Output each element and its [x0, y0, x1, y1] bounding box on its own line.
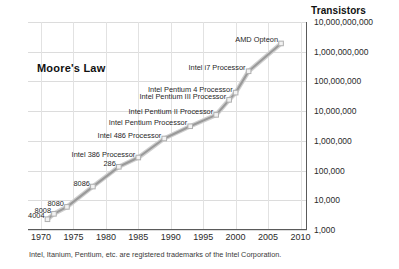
data-point-label: 8086 — [73, 180, 89, 188]
data-point-marker — [65, 205, 70, 210]
data-point-marker — [214, 113, 219, 118]
x-tick-label: 1995 — [193, 232, 213, 242]
y-tick-label: 10,000,000,000 — [314, 18, 373, 27]
chart-title: Moore's Law — [37, 62, 105, 74]
data-point-marker — [91, 184, 96, 189]
data-point-marker — [233, 90, 238, 95]
y-tick-label: 100,000 — [314, 166, 345, 175]
x-tick-label: 2010 — [290, 232, 310, 242]
x-tick-label: 2000 — [226, 232, 246, 242]
y-axis-tick-labels: 1,00010,000100,0001,000,00010,000,000100… — [311, 22, 399, 230]
data-point-marker — [136, 155, 141, 160]
y-tick-label: 1,000,000 — [314, 136, 352, 145]
x-tick-label: 1975 — [63, 232, 83, 242]
data-point-marker — [188, 124, 193, 129]
y-axis-title: Transistors — [311, 5, 366, 16]
data-point-marker — [117, 164, 122, 169]
x-axis-line — [28, 229, 307, 230]
x-tick-label: 1985 — [128, 232, 148, 242]
y-tick-label: 10,000 — [314, 196, 340, 205]
data-point-marker — [279, 41, 284, 46]
y-tick-label: 1,000,000,000 — [314, 47, 368, 56]
data-point-label: Intel i7 Processor — [188, 64, 245, 72]
x-tick-label: 2005 — [258, 232, 278, 242]
data-point-label: Intel Pentium III Processor — [139, 93, 226, 101]
data-point-label: Intel Pentium 4 Processor — [148, 86, 233, 94]
data-point-marker — [246, 69, 251, 74]
data-point-label: 286 — [103, 160, 115, 168]
x-tick-label: 1980 — [96, 232, 116, 242]
data-point-label: 8008 — [35, 207, 51, 215]
trademark-footnote: Intel, Itanium, Pentium, etc. are regist… — [29, 250, 281, 259]
data-point-marker — [227, 98, 232, 103]
data-point-marker — [45, 217, 50, 222]
x-axis-tick-labels: 197019751980198519901995200020052010 — [28, 232, 307, 246]
data-point-marker — [162, 136, 167, 141]
moores-law-chart: Transistors 1,00010,000100,0001,000,0001… — [0, 0, 399, 269]
x-tick-label: 1990 — [161, 232, 181, 242]
data-point-label: Intel 386 Processor — [72, 151, 136, 159]
data-point-marker — [52, 212, 57, 217]
y-tick-label: 1,000 — [314, 226, 335, 235]
y-tick-label: 100,000,000 — [314, 77, 361, 86]
y-tick-label: 10,000,000 — [314, 107, 357, 116]
data-point-label: Intel Pentium II Processor — [129, 108, 214, 116]
y-axis-line — [306, 22, 307, 230]
data-point-label: Intel 486 Processor — [98, 132, 162, 140]
data-point-label: Intel Pentium Processor — [109, 119, 187, 127]
x-tick-label: 1970 — [31, 232, 51, 242]
gridline-horizontal — [28, 230, 307, 231]
data-point-label: 8080 — [47, 200, 63, 208]
data-point-label: AMD Opteon — [235, 36, 278, 44]
